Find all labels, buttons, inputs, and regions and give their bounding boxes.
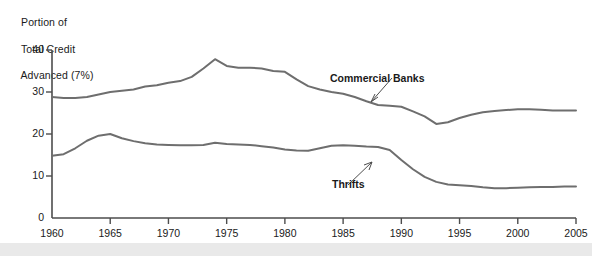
- x-tick-label: 1990: [376, 227, 426, 239]
- x-tick-label: 1960: [27, 227, 77, 239]
- annotation-leader-lines: [348, 78, 392, 185]
- series-line-commercial-banks: [52, 59, 576, 124]
- x-axis-ticks: [110, 218, 576, 224]
- y-tick-label: 0: [8, 211, 44, 223]
- axis-lines: [52, 50, 576, 218]
- series-line-thrifts: [52, 134, 576, 188]
- chart-plot-area: [0, 0, 592, 256]
- chart-container: Portion of Total Credit Advanced (7%) 01…: [0, 0, 592, 256]
- x-tick-label: 1965: [85, 227, 135, 239]
- y-tick-label: 20: [8, 127, 44, 139]
- x-tick-label: 2005: [551, 227, 592, 239]
- y-tick-label: 40: [8, 43, 44, 55]
- y-tick-label: 10: [8, 169, 44, 181]
- x-tick-label: 1985: [318, 227, 368, 239]
- x-tick-label: 1970: [143, 227, 193, 239]
- x-tick-label: 1995: [435, 227, 485, 239]
- x-tick-label: 1980: [260, 227, 310, 239]
- bottom-band: [0, 243, 592, 256]
- series-label-thrifts: Thrifts: [332, 178, 365, 190]
- series-label-commercial-banks: Commercial Banks: [330, 72, 425, 84]
- x-tick-label: 2000: [493, 227, 543, 239]
- series-lines: [52, 59, 576, 188]
- x-tick-label: 1975: [202, 227, 252, 239]
- y-tick-label: 30: [8, 85, 44, 97]
- y-axis-ticks: [46, 50, 52, 176]
